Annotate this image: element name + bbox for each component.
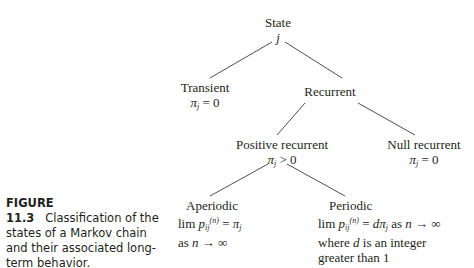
node-null-recurrent-title: Null recurrent — [374, 137, 474, 152]
edge-recurrent-positive — [277, 103, 305, 135]
as-text: as — [388, 216, 405, 231]
node-recurrent: Recurrent — [280, 84, 380, 99]
node-state: State j — [238, 15, 318, 45]
node-positive-recurrent: Positive recurrent πj > 0 — [222, 137, 342, 171]
lim-text: lim — [178, 216, 195, 231]
equals-zero: = 0 — [418, 152, 438, 167]
node-periodic: Periodic lim pij(n) = dπj as n → ∞ where… — [318, 198, 474, 265]
node-positive-recurrent-title: Positive recurrent — [222, 137, 342, 152]
subscript-j: j — [239, 223, 241, 232]
edge-recurrent-null — [358, 103, 415, 135]
where-text: where — [318, 235, 353, 250]
node-null-recurrent: Null recurrent πj = 0 — [374, 137, 474, 171]
node-state-title: State — [238, 15, 318, 30]
superscript-n: (n) — [350, 216, 359, 225]
equals-zero: = 0 — [199, 95, 219, 110]
node-periodic-title: Periodic — [318, 198, 474, 213]
superscript-n: (n) — [210, 216, 219, 225]
greater-than-zero: > 0 — [276, 152, 296, 167]
edge-root-recurrent — [285, 42, 342, 78]
node-periodic-greater: greater than 1 — [318, 250, 474, 265]
node-recurrent-title: Recurrent — [280, 84, 380, 99]
node-transient-condition: πj = 0 — [155, 95, 255, 114]
arrow-infinity: → ∞ — [199, 235, 228, 250]
node-transient: Transient πj = 0 — [155, 80, 255, 114]
node-periodic-limit: lim pij(n) = dπj as n → ∞ — [318, 213, 474, 235]
node-positive-recurrent-condition: πj > 0 — [222, 152, 342, 171]
node-state-variable: j — [238, 30, 318, 45]
equals: = — [219, 216, 233, 231]
node-transient-title: Transient — [155, 80, 255, 95]
node-periodic-where: where d is an integer — [318, 235, 474, 250]
node-aperiodic-limit: lim pij(n) = πj — [178, 213, 278, 235]
node-null-recurrent-condition: πj = 0 — [374, 152, 474, 171]
figure-caption: FIGURE 11.3 Classification of the states… — [6, 196, 166, 268]
node-aperiodic-title: Aperiodic — [178, 198, 278, 213]
node-aperiodic-asymptotic: as n → ∞ — [178, 235, 278, 250]
is-integer-text: is an integer — [360, 235, 427, 250]
equals: = — [359, 216, 373, 231]
lim-text: lim — [318, 216, 335, 231]
edge-root-transient — [210, 42, 272, 78]
arrow-infinity: → ∞ — [412, 216, 441, 231]
node-aperiodic: Aperiodic lim pij(n) = πj as n → ∞ — [178, 198, 278, 250]
as-text: as — [178, 235, 192, 250]
